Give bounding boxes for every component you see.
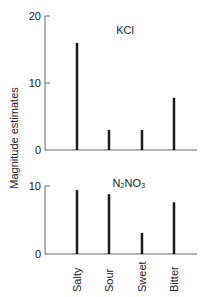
bar-bitter [173, 202, 176, 254]
bars-n2no3 [76, 190, 176, 254]
y-axis-label: Magnitude estimates [8, 87, 20, 189]
bar-sweet [141, 233, 144, 254]
panel-title-kcl: KCl [116, 24, 134, 36]
panel-kcl: 20 10 0 KCl [29, 10, 197, 156]
bars-kcl [76, 43, 176, 150]
panel-title-n2no3: N₂NO₃ [112, 177, 145, 189]
tick-label-10: 10 [29, 77, 41, 89]
bar-salty [76, 190, 79, 254]
bar-bitter [173, 98, 176, 150]
tick-label-0: 0 [35, 144, 41, 156]
category-label-salty: Salty [71, 267, 83, 292]
tick-label-20: 20 [29, 10, 41, 22]
tick-label-10: 10 [29, 180, 41, 192]
chart-canvas: Magnitude estimates 20 10 0 KCl 10 0 N₂N… [0, 0, 206, 297]
bar-salty [76, 43, 79, 150]
category-label-sour: Sour [103, 268, 115, 292]
panel-n2no3: 10 0 N₂NO₃ [29, 177, 197, 260]
tick-label-0: 0 [35, 248, 41, 260]
category-label-sweet: Sweet [136, 261, 148, 292]
bar-sour [108, 130, 111, 150]
bar-sour [108, 194, 111, 254]
bar-sweet [141, 130, 144, 150]
category-label-bitter: Bitter [168, 266, 180, 292]
